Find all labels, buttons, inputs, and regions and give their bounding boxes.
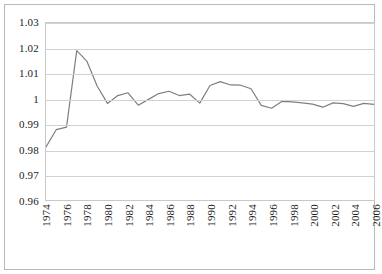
y-axis-tick-label: 1.01: [19, 67, 39, 79]
y-axis-tick-label: 0.96: [19, 195, 39, 207]
x-axis-tick-label: 1984: [143, 204, 155, 227]
gridline: [46, 49, 374, 50]
x-axis-tick-label: 1978: [81, 204, 93, 227]
x-axis-tick-label: 1990: [205, 204, 217, 227]
plot-area: [45, 22, 375, 201]
y-axis-tick-label: 0.99: [19, 118, 39, 130]
gridline: [46, 100, 374, 101]
y-axis: 1.031.021.0110.990.980.970.96: [0, 22, 43, 201]
x-axis-tick-label: 1976: [61, 204, 73, 227]
x-axis-tick-label: 1992: [226, 204, 238, 227]
x-axis: 1974197619781980198219841986198819901992…: [45, 204, 375, 264]
x-axis-tick-label: 2004: [349, 204, 361, 227]
gridline: [46, 151, 374, 152]
gridline: [46, 74, 374, 75]
x-axis-tick-label: 1998: [288, 204, 300, 227]
y-axis-tick-label: 1.03: [19, 16, 39, 28]
y-axis-tick-label: 1.02: [19, 42, 39, 54]
y-axis-tick-label: 0.97: [19, 169, 39, 181]
x-axis-tick-label: 1994: [246, 204, 258, 227]
x-axis-tick-label: 1980: [102, 204, 114, 227]
x-axis-tick-label: 2000: [308, 204, 320, 227]
gridline: [46, 176, 374, 177]
x-axis-tick-label: 2006: [370, 204, 382, 227]
x-axis-tick-label: 2002: [329, 204, 341, 227]
y-axis-tick-label: 1: [33, 93, 39, 105]
gridline: [46, 125, 374, 126]
x-axis-tick-label: 1988: [184, 204, 196, 227]
x-axis-tick-label: 1982: [123, 204, 135, 227]
x-axis-tick-label: 1986: [164, 204, 176, 227]
x-axis-tick-label: 1996: [267, 204, 279, 227]
gridline: [46, 23, 374, 24]
y-axis-tick-label: 0.98: [19, 144, 39, 156]
x-axis-tick-label: 1974: [40, 204, 52, 227]
